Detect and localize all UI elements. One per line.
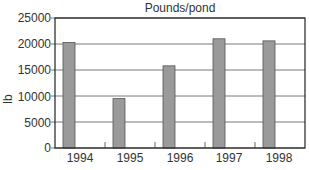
plot-area [0,0,309,170]
bar-1994 [63,42,75,148]
bar-chart: Pounds/pond lb 0 5000 10000 15000 20000 … [0,0,309,170]
bar-1996 [163,66,175,148]
bar-1995 [113,99,125,148]
bar-1998 [263,41,275,148]
bar-1997 [213,39,225,148]
